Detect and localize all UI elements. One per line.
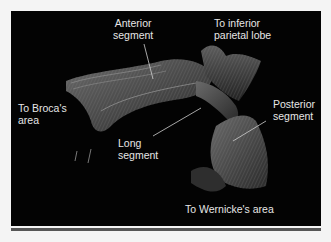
label-line: To Wernicke's area [185, 203, 274, 215]
label-wernicke-area: To Wernicke's area [185, 203, 274, 215]
leader-line-long [153, 108, 201, 136]
label-inferior-parietal-lobe: To inferior parietal lobe [214, 17, 271, 41]
label-line: segment [118, 149, 158, 161]
label-long-segment: Long segment [118, 137, 158, 161]
label-line: Posterior [273, 98, 315, 110]
label-line: area [18, 114, 67, 126]
label-line: parietal lobe [214, 29, 271, 41]
label-posterior-segment: Posterior segment [273, 98, 315, 122]
label-line: To Broca's [18, 102, 67, 114]
label-line: To inferior [214, 17, 271, 29]
label-line: Long [118, 137, 158, 149]
tractography-image-panel: Anterior segment To inferior parietal lo… [11, 11, 321, 226]
bottom-divider-rule [11, 228, 321, 231]
label-anterior-segment: Anterior segment [113, 17, 153, 41]
label-line: segment [113, 29, 153, 41]
label-broca-area: To Broca's area [18, 102, 67, 126]
label-line: Anterior [113, 17, 153, 29]
label-line: segment [273, 110, 315, 122]
